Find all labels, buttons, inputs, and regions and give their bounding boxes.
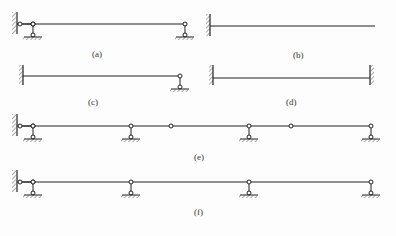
label-f: (f) bbox=[194, 207, 203, 217]
beam-support-diagram: (a) (b) (c) (d) (e) (f) bbox=[0, 0, 396, 236]
label-a: (a) bbox=[92, 49, 102, 59]
beam-c bbox=[19, 65, 189, 92]
beam-b bbox=[206, 14, 375, 36]
label-d: (d) bbox=[286, 97, 297, 107]
beam-a bbox=[12, 12, 194, 40]
beam-f bbox=[12, 170, 380, 198]
beam-d bbox=[209, 65, 374, 85]
beam-e bbox=[12, 114, 380, 142]
diagram-canvas bbox=[0, 0, 396, 236]
label-c: (c) bbox=[88, 97, 98, 107]
label-b: (b) bbox=[293, 50, 304, 60]
label-e: (e) bbox=[194, 152, 204, 162]
